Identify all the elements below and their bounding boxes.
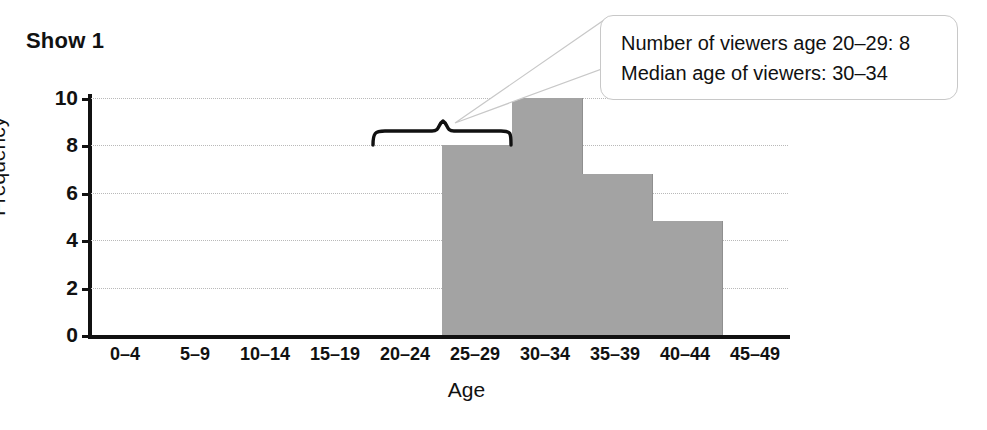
callout-line-median-age: Median age of viewers: 30–34 xyxy=(621,58,957,88)
bar-30-34 xyxy=(512,98,583,335)
y-tick-label-2: 2 xyxy=(66,276,78,300)
gridline-8 xyxy=(90,145,788,146)
y-tick-4: 4 xyxy=(90,240,91,241)
x-tick-label-20-24: 20–24 xyxy=(370,344,440,365)
y-tick-label-4: 4 xyxy=(66,228,78,252)
page-title: Show 1 xyxy=(26,28,104,54)
x-axis-line xyxy=(88,335,790,339)
x-tick-label-0-4: 0–4 xyxy=(90,344,160,365)
x-tick-label-25-29: 25–29 xyxy=(440,344,510,365)
y-tick-label-10: 10 xyxy=(55,86,78,110)
y-tick-2: 2 xyxy=(90,288,91,289)
x-tick-label-35-39: 35–39 xyxy=(580,344,650,365)
x-tick-label-10-14: 10–14 xyxy=(230,344,300,365)
plot-area: 10 8 6 4 2 0 xyxy=(90,98,788,335)
x-tick-label-5-9: 5–9 xyxy=(160,344,230,365)
y-tick-mark-6 xyxy=(82,193,91,196)
y-tick-mark-0 xyxy=(82,335,91,338)
y-tick-8: 8 xyxy=(90,145,91,146)
y-tick-mark-8 xyxy=(82,145,91,148)
y-tick-mark-2 xyxy=(82,288,91,291)
bar-40-44 xyxy=(652,221,723,335)
x-tick-label-45-49: 45–49 xyxy=(720,344,790,365)
y-tick-mark-4 xyxy=(82,240,91,243)
x-axis-title: Age xyxy=(0,378,987,402)
y-tick-0: 0 xyxy=(90,335,91,336)
y-tick-label-8: 8 xyxy=(66,133,78,157)
y-tick-mark-10 xyxy=(82,98,91,101)
y-tick-label-6: 6 xyxy=(66,181,78,205)
y-tick-label-0: 0 xyxy=(66,323,78,347)
x-tick-label-30-34: 30–34 xyxy=(510,344,580,365)
y-tick-6: 6 xyxy=(90,193,91,194)
x-tick-label-40-44: 40–44 xyxy=(650,344,720,365)
y-tick-10: 10 xyxy=(90,98,91,99)
x-tick-label-15-19: 15–19 xyxy=(300,344,370,365)
viewers-callout: Number of viewers age 20–29: 8 Median ag… xyxy=(600,15,958,100)
gridline-6 xyxy=(90,193,788,194)
y-axis-title: Frequency xyxy=(0,117,10,216)
histogram-figure: Show 1 Frequency 10 8 6 4 2 xyxy=(0,0,987,430)
bar-25-29 xyxy=(442,145,513,335)
callout-line-viewers-count: Number of viewers age 20–29: 8 xyxy=(621,28,957,58)
bar-35-39 xyxy=(582,174,653,335)
x-axis-title-text: Age xyxy=(448,378,485,402)
